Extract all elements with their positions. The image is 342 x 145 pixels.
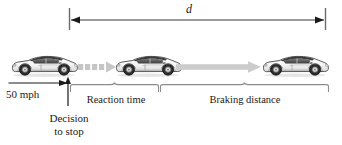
braking-distance-brace (161, 83, 329, 92)
reaction-time-label: Reaction time (76, 93, 156, 106)
braking-distance-label: Braking distance (180, 93, 310, 106)
decision-label-line-1: Decision (41, 112, 97, 125)
decision-to-stop-label: Decision to stop (41, 112, 97, 138)
decision-label-line-2: to stop (41, 125, 97, 138)
car-after-reaction-time (112, 48, 184, 78)
total-distance-dimension (0, 0, 342, 40)
total-distance-label: d (186, 2, 192, 16)
car-stopped (259, 48, 331, 78)
dashed-right-arrow-icon (78, 60, 122, 74)
stopping-distance-figure: d (0, 0, 342, 145)
car-at-decision-point (8, 48, 80, 78)
reaction-time-brace (71, 83, 159, 92)
solid-right-arrow-icon (176, 60, 262, 74)
